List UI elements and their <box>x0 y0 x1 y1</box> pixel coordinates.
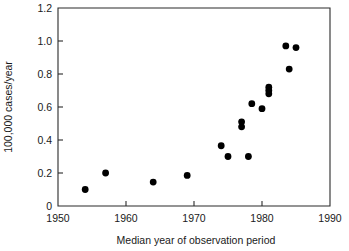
y-axis-ticks <box>58 41 63 173</box>
y-axis-tick-labels: 00.20.40.60.81.01.2 <box>37 2 52 212</box>
x-tick-label: 1990 <box>318 212 342 224</box>
data-point <box>102 170 109 177</box>
y-tick-label: 0.8 <box>37 68 52 80</box>
data-point-series <box>82 43 300 193</box>
data-point <box>265 90 272 97</box>
x-tick-label: 1970 <box>182 212 206 224</box>
data-point <box>82 186 89 193</box>
data-point <box>282 43 289 50</box>
data-point <box>293 44 300 51</box>
x-axis-title: Median year of observation period <box>117 234 276 246</box>
scatter-plot-figure: 00.20.40.60.81.01.2 19501960197019801990… <box>0 0 349 251</box>
data-point <box>248 100 255 107</box>
data-point <box>245 153 252 160</box>
y-tick-label: 1.2 <box>37 2 52 14</box>
x-tick-label: 1980 <box>250 212 274 224</box>
x-tick-label: 1960 <box>114 212 138 224</box>
y-tick-label: 0.4 <box>37 134 52 146</box>
y-tick-label: 0.2 <box>37 167 52 179</box>
x-tick-label: 1950 <box>46 212 70 224</box>
data-point <box>150 179 157 186</box>
data-point <box>238 123 245 130</box>
data-point <box>259 105 266 112</box>
chart-canvas: 00.20.40.60.81.01.2 19501960197019801990… <box>0 0 349 251</box>
x-axis-tick-labels: 19501960197019801990 <box>46 212 342 224</box>
data-point <box>225 153 232 160</box>
data-point <box>218 142 225 149</box>
y-tick-label: 0.6 <box>37 101 52 113</box>
y-tick-label: 0 <box>46 200 52 212</box>
x-axis-ticks <box>126 201 262 206</box>
y-tick-label: 1.0 <box>37 35 52 47</box>
y-axis-title: 100,000 cases/year <box>2 61 14 153</box>
data-point <box>286 66 293 73</box>
data-point <box>184 172 191 179</box>
plot-frame <box>58 8 330 206</box>
